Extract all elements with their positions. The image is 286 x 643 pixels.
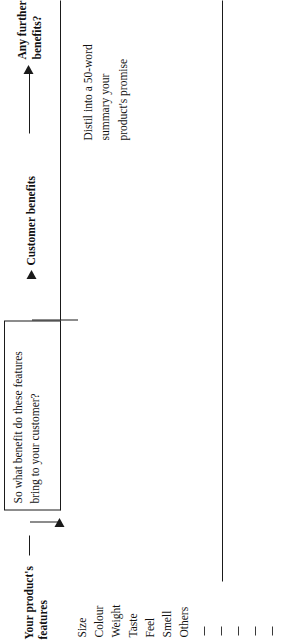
feature-item: Others: [176, 604, 192, 637]
blank-rule: [213, 626, 229, 635]
start-label-leader-line: [29, 535, 30, 555]
feature-item: Feel: [142, 604, 158, 637]
arrow-features-to-question-head: [55, 518, 65, 527]
feature-item: Taste: [125, 604, 141, 637]
feature-item: Weight: [108, 604, 124, 637]
blank-rule: [230, 626, 246, 635]
question-box: So what benefit do these features bring …: [4, 320, 61, 510]
blank-rule: [264, 626, 280, 635]
arrow-question-to-benefits-head: [27, 270, 37, 279]
annotation-distil-summary: Distil into a 50-word summary your produ…: [80, 8, 132, 140]
arrow-benefits-to-further-shaft: [29, 71, 30, 133]
worksheet-canvas: Your product's features So what benefit …: [0, 0, 286, 643]
feature-list: SizeColourWeightTasteFeelSmellOthers: [74, 604, 192, 637]
stage-label-any-further-benefits: Any further benefits?: [15, 0, 45, 59]
blank-rule: [196, 626, 212, 635]
arrow-benefits-to-further-head: [24, 65, 34, 74]
feature-item: Size: [74, 604, 90, 637]
column-rule-upper: [222, 0, 223, 581]
arrow-question-to-benefits-shaft: [32, 319, 78, 320]
feature-item: Colour: [91, 604, 107, 637]
worksheet-rotation-wrapper: Your product's features So what benefit …: [0, 0, 286, 643]
blank-rule: [247, 626, 263, 635]
blank-write-in-rules: [196, 626, 280, 635]
feature-item: Smell: [159, 604, 175, 637]
stage-label-customer-benefits: Customer benefits: [24, 145, 38, 265]
question-box-text: So what benefit do these features bring …: [10, 326, 43, 503]
start-label-your-products-features: Your product's features: [22, 555, 51, 639]
